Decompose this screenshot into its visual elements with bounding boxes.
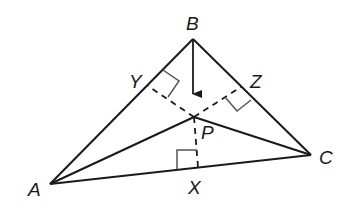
- segment-py-dashed: [148, 86, 194, 117]
- diagram-svg: [0, 0, 359, 214]
- right-angle-mark-z: [225, 97, 251, 111]
- label-p: P: [201, 123, 214, 142]
- label-z: Z: [250, 72, 262, 91]
- segment-ap: [50, 117, 194, 184]
- triangle-diagram: B Y Z P C A X: [0, 0, 359, 214]
- right-angle-mark-y: [163, 70, 179, 97]
- right-angle-mark-x: [177, 150, 197, 169]
- label-c: C: [319, 148, 333, 167]
- segment-px-dashed: [194, 117, 198, 167]
- segment-pz-dashed: [194, 87, 241, 117]
- segment-ab: [50, 39, 193, 184]
- label-a: A: [28, 180, 41, 199]
- label-y: Y: [129, 72, 142, 91]
- segment-ca: [50, 155, 311, 184]
- label-x: X: [188, 178, 201, 197]
- label-b: B: [186, 14, 199, 33]
